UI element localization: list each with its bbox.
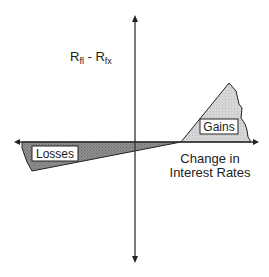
svg-text:Gains: Gains [203, 120, 234, 134]
gains-label: Gains [200, 119, 238, 134]
x-axis-label-line1: Change in [180, 151, 239, 166]
arrow-right-icon [253, 139, 259, 145]
losses-label: Losses [32, 146, 78, 161]
arrow-down-icon [132, 256, 138, 263]
arrow-left-icon [14, 139, 20, 145]
svg-text:Losses: Losses [36, 147, 74, 161]
arrow-up-icon [132, 15, 138, 22]
x-axis-label-line2: Interest Rates [170, 165, 251, 180]
y-axis [132, 15, 138, 263]
y-axis-label: Rfl - Rfx [70, 49, 112, 66]
diagram-canvas: Gains Losses Rfl - Rfx Change in Interes… [0, 0, 269, 277]
